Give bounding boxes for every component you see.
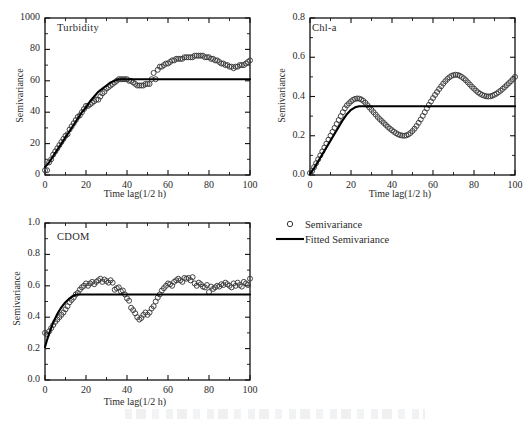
panel-chla-title: Chl-a (312, 22, 337, 33)
x-tick-label: 60 (148, 179, 188, 190)
legend-label-semivariance: Semivariance (305, 219, 362, 230)
x-tick-label: 60 (413, 179, 453, 190)
y-tick-label: 60 (0, 74, 40, 85)
y-tick-label: 1000 (0, 11, 40, 22)
x-tick-label: 40 (372, 179, 412, 190)
y-tick-label: 0.6 (265, 50, 305, 61)
y-tick-label: 0.4 (265, 90, 305, 101)
y-tick-label: 20 (0, 137, 40, 148)
legend-entry-semivariance: Semivariance (275, 218, 362, 230)
y-tick-label: 0 (0, 168, 40, 179)
x-tick-label: 20 (66, 179, 106, 190)
y-tick-label: 0.8 (265, 11, 305, 22)
scan-bleed-artifact (125, 409, 425, 419)
x-tick-label: 0 (290, 179, 330, 190)
x-tick-label: 40 (107, 179, 147, 190)
panel-turbidity: Semivariance Turbidity Time lag(1/2 h) 0… (0, 0, 265, 205)
panel-cdom-xlabel: Time lag(1/2 h) (45, 396, 225, 407)
x-tick-label: 100 (230, 384, 270, 395)
y-tick-label: 0.2 (265, 129, 305, 140)
panel-chla: Semivariance Chl-a Time lag(1/2 h) 02040… (265, 0, 530, 205)
y-tick-label: 0.2 (0, 342, 40, 353)
y-tick-label: 0.0 (0, 373, 40, 384)
legend-label-fitted-semivariance: Fitted Semivariance (305, 234, 389, 245)
x-tick-label: 20 (331, 179, 371, 190)
panel-turbidity-title: Turbidity (57, 22, 99, 33)
x-tick-label: 60 (148, 384, 188, 395)
fitted-semivariance-line (310, 106, 515, 174)
open-circle-icon (275, 218, 305, 230)
x-tick-label: 0 (25, 179, 65, 190)
panel-cdom-title: CDOM (57, 231, 90, 242)
legend-entry-fitted-semivariance: Fitted Semivariance (275, 233, 389, 245)
x-tick-label: 80 (454, 179, 494, 190)
x-tick-label: 40 (107, 384, 147, 395)
x-tick-label: 100 (495, 179, 530, 190)
y-tick-label: 1.0 (0, 216, 40, 227)
fitted-semivariance-line (45, 79, 250, 167)
x-tick-label: 80 (189, 384, 229, 395)
y-tick-label: 0.8 (0, 247, 40, 258)
solid-line-icon (275, 233, 305, 245)
semivariance-points (43, 275, 253, 337)
semivariance-points (43, 53, 253, 173)
panel-turbidity-ylabel: Semivariance (14, 56, 25, 136)
semivariance-points (308, 72, 518, 175)
figure-legend: Semivariance Fitted Semivariance (275, 218, 495, 258)
x-tick-label: 20 (66, 384, 106, 395)
y-tick-label: 0.6 (0, 279, 40, 290)
panel-cdom-ylabel: Semivariance (11, 259, 22, 339)
y-tick-label: 40 (0, 105, 40, 116)
panel-cdom: Semivariance CDOM Time lag(1/2 h) 020406… (0, 205, 265, 410)
y-tick-label: 0.0 (265, 168, 305, 179)
x-tick-label: 80 (189, 179, 229, 190)
x-tick-label: 0 (25, 384, 65, 395)
y-tick-label: 0.4 (0, 310, 40, 321)
x-tick-label: 100 (230, 179, 270, 190)
fitted-semivariance-line (45, 294, 250, 347)
semivariogram-figure: Semivariance Turbidity Time lag(1/2 h) 0… (0, 0, 530, 424)
y-tick-label: 80 (0, 42, 40, 53)
